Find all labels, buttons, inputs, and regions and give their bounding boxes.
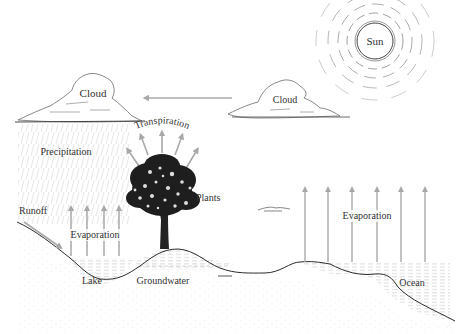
- plants-label: Plants: [196, 192, 221, 203]
- cloud-left-label: Cloud: [80, 87, 107, 99]
- sun: Sun: [316, 0, 434, 100]
- small-wisp: [258, 207, 290, 211]
- tree: [126, 154, 200, 249]
- cloud-left: Cloud: [15, 73, 145, 122]
- ocean-label: Ocean: [399, 277, 425, 288]
- groundwater-region: [132, 248, 235, 270]
- cloud-right: Cloud: [228, 80, 350, 118]
- lake-label: Lake: [82, 275, 103, 286]
- evaporation-lake-label: Evaporation: [71, 229, 120, 240]
- groundwater-label: Groundwater: [137, 275, 190, 286]
- precipitation-label: Precipitation: [40, 146, 91, 157]
- runoff-label: Runoff: [19, 205, 48, 216]
- water-cycle-diagram: Sun Cloud Cloud Precipitation Transpirat…: [0, 0, 465, 334]
- sun-label: Sun: [366, 35, 384, 47]
- ocean-evaporation-arrows: [305, 189, 425, 262]
- evaporation-ocean-label: Evaporation: [343, 210, 392, 221]
- transpiration-label: Transpiration: [133, 114, 192, 130]
- cloud-right-label: Cloud: [273, 94, 297, 105]
